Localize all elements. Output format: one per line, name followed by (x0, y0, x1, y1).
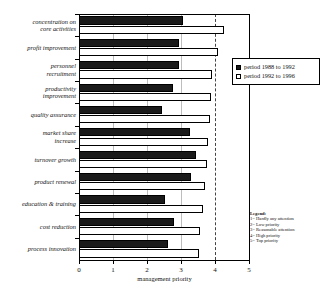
y-tick-1 (75, 36, 79, 37)
bar-1-3 (79, 93, 211, 101)
bar-1-7 (79, 182, 205, 190)
x-tick-label-2: 2 (137, 266, 157, 274)
y-tick-10 (75, 238, 79, 239)
x-tick-label-0: 0 (69, 266, 89, 274)
bar-0-6 (79, 151, 196, 159)
bar-0-8 (79, 195, 165, 203)
category-label-8: education & training (22, 200, 76, 208)
x-axis-line (79, 260, 250, 261)
bar-1-10 (79, 249, 199, 257)
category-label-5: market share increase (43, 129, 76, 144)
scale-legend-item-5: 5= Top priority (250, 238, 324, 243)
bar-0-7 (79, 173, 191, 181)
bar-1-5 (79, 138, 208, 146)
y-tick-8 (75, 193, 79, 194)
bar-1-6 (79, 160, 207, 168)
x-tick-label-3: 3 (171, 266, 191, 274)
bar-1-8 (79, 205, 203, 213)
legend-item-0[interactable]: period 1988 to 1992 (236, 63, 316, 71)
x-tick-label-5: 5 (239, 266, 259, 274)
legend-swatch-dark-icon (236, 65, 241, 70)
legend-swatch-light-icon (236, 74, 241, 79)
bar-0-4 (79, 106, 162, 114)
category-label-10: process innovation (28, 245, 76, 253)
bar-1-0 (79, 26, 224, 34)
bar-1-4 (79, 115, 210, 123)
scale-legend: Legend: 1= Hardly any attention 2= Low p… (250, 211, 324, 243)
legend-item-1[interactable]: period 1992 to 1996 (236, 72, 316, 80)
legend-label-0: period 1988 to 1992 (244, 63, 295, 71)
bar-0-10 (79, 240, 168, 248)
y-tick-5 (75, 126, 79, 127)
bar-0-0 (79, 16, 183, 24)
x-tick-label-4: 4 (205, 266, 225, 274)
x-tick-label-1: 1 (103, 266, 123, 274)
y-tick-3 (75, 81, 79, 82)
bar-0-2 (79, 61, 179, 69)
y-tick-4 (75, 103, 79, 104)
y-tick-6 (75, 148, 79, 149)
category-label-7: product renewal (34, 178, 76, 186)
category-label-6: turnover growth (35, 156, 76, 164)
bar-0-1 (79, 39, 179, 47)
bar-chart: concentration on core activitiesprofit i… (0, 0, 324, 298)
category-label-2: personnel recruitment (46, 62, 76, 77)
category-label-4: quality assurance (31, 111, 76, 119)
bar-0-3 (79, 84, 173, 92)
plot-top-border (79, 14, 250, 15)
category-label-9: cost reduction (40, 223, 76, 231)
y-tick-2 (75, 59, 79, 60)
category-label-3: productivity improvement (43, 85, 76, 100)
x-axis-title: management priority (79, 275, 250, 282)
y-tick-7 (75, 171, 79, 172)
series-legend: period 1988 to 1992 period 1992 to 1996 (232, 58, 320, 85)
bar-1-9 (79, 227, 200, 235)
y-tick-9 (75, 215, 79, 216)
bar-0-9 (79, 218, 174, 226)
bar-1-1 (79, 48, 218, 56)
category-label-1: profit improvement (27, 44, 76, 52)
bar-1-2 (79, 70, 212, 78)
y-tick-0 (75, 14, 79, 15)
category-label-0: concentration on core activities (33, 18, 76, 33)
bar-0-5 (79, 128, 190, 136)
legend-label-1: period 1992 to 1996 (244, 72, 295, 80)
